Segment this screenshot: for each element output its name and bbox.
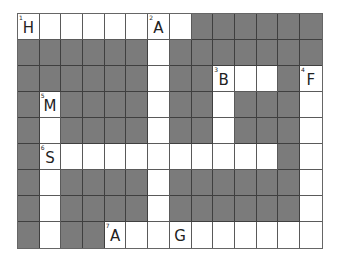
answer-cell[interactable] [213, 222, 235, 248]
block-cell [61, 170, 83, 196]
answer-cell[interactable] [170, 14, 192, 40]
block-cell [235, 170, 257, 196]
answer-cell[interactable] [170, 144, 192, 170]
answer-cell[interactable]: 7A [105, 222, 127, 248]
answer-cell[interactable] [257, 222, 279, 248]
block-cell [192, 40, 214, 66]
block-cell [257, 40, 279, 66]
block-cell [61, 92, 83, 118]
block-cell [278, 144, 300, 170]
block-cell [61, 66, 83, 92]
block-cell [300, 40, 322, 66]
block-cell [235, 14, 257, 40]
cell-letter: H [18, 19, 39, 37]
cell-letter: B [213, 71, 234, 89]
answer-cell[interactable] [40, 14, 62, 40]
block-cell [18, 118, 40, 144]
answer-cell[interactable] [213, 92, 235, 118]
answer-cell[interactable] [300, 222, 322, 248]
answer-cell[interactable] [148, 222, 170, 248]
cell-letter: G [170, 227, 191, 245]
answer-cell[interactable] [148, 66, 170, 92]
answer-cell[interactable] [235, 222, 257, 248]
answer-cell[interactable]: 2A [148, 14, 170, 40]
block-cell [126, 66, 148, 92]
answer-cell[interactable] [148, 144, 170, 170]
answer-cell[interactable] [105, 14, 127, 40]
answer-cell[interactable]: 5M [40, 92, 62, 118]
answer-cell[interactable] [126, 144, 148, 170]
answer-cell[interactable] [278, 222, 300, 248]
block-cell [83, 170, 105, 196]
answer-cell[interactable]: 3B [213, 66, 235, 92]
answer-cell[interactable] [300, 170, 322, 196]
block-cell [170, 170, 192, 196]
block-cell [18, 196, 40, 222]
block-cell [213, 170, 235, 196]
block-cell [83, 40, 105, 66]
answer-cell[interactable] [148, 92, 170, 118]
block-cell [83, 196, 105, 222]
answer-cell[interactable] [213, 118, 235, 144]
block-cell [40, 40, 62, 66]
answer-cell[interactable] [300, 92, 322, 118]
block-cell [61, 118, 83, 144]
answer-cell[interactable]: G [170, 222, 192, 248]
answer-cell[interactable] [83, 14, 105, 40]
block-cell [61, 222, 83, 248]
answer-cell[interactable] [300, 118, 322, 144]
block-cell [213, 40, 235, 66]
block-cell [257, 170, 279, 196]
answer-cell[interactable] [192, 144, 214, 170]
block-cell [126, 170, 148, 196]
block-cell [235, 92, 257, 118]
answer-cell[interactable] [213, 144, 235, 170]
answer-cell[interactable]: 1H [18, 14, 40, 40]
answer-cell[interactable]: 4F [300, 66, 322, 92]
answer-cell[interactable]: 6S [40, 144, 62, 170]
block-cell [18, 92, 40, 118]
answer-cell[interactable] [148, 118, 170, 144]
answer-cell[interactable] [148, 170, 170, 196]
block-cell [213, 196, 235, 222]
block-cell [105, 118, 127, 144]
answer-cell[interactable] [40, 118, 62, 144]
block-cell [213, 14, 235, 40]
answer-cell[interactable] [192, 222, 214, 248]
block-cell [257, 196, 279, 222]
answer-cell[interactable] [235, 66, 257, 92]
block-cell [126, 92, 148, 118]
block-cell [83, 118, 105, 144]
answer-cell[interactable] [40, 222, 62, 248]
block-cell [235, 196, 257, 222]
answer-cell[interactable] [148, 40, 170, 66]
answer-cell[interactable] [40, 196, 62, 222]
answer-cell[interactable] [257, 66, 279, 92]
answer-cell[interactable] [235, 144, 257, 170]
answer-cell[interactable] [126, 222, 148, 248]
cell-letter: M [40, 97, 61, 115]
answer-cell[interactable] [148, 196, 170, 222]
block-cell [83, 92, 105, 118]
block-cell [257, 14, 279, 40]
answer-cell[interactable] [61, 144, 83, 170]
answer-cell[interactable] [83, 144, 105, 170]
block-cell [192, 66, 214, 92]
block-cell [170, 118, 192, 144]
block-cell [192, 92, 214, 118]
block-cell [278, 14, 300, 40]
block-cell [126, 196, 148, 222]
crossword-grid: 1H2A3B4F5M6S7AG [17, 13, 323, 249]
block-cell [18, 40, 40, 66]
answer-cell[interactable] [257, 144, 279, 170]
answer-cell[interactable] [126, 14, 148, 40]
answer-cell[interactable] [40, 170, 62, 196]
block-cell [235, 118, 257, 144]
answer-cell[interactable] [61, 14, 83, 40]
answer-cell[interactable] [105, 144, 127, 170]
block-cell [235, 40, 257, 66]
block-cell [18, 222, 40, 248]
answer-cell[interactable] [300, 196, 322, 222]
block-cell [18, 66, 40, 92]
answer-cell[interactable] [300, 144, 322, 170]
